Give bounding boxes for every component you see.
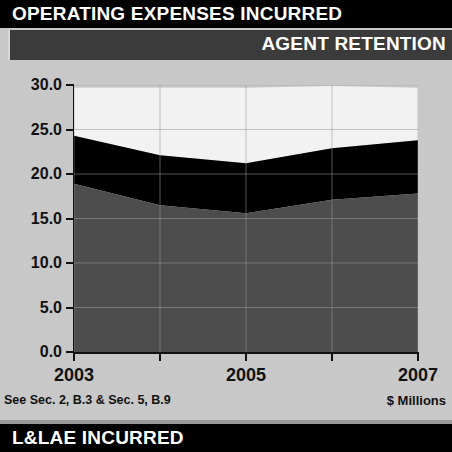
- footer-label: L&LAE INCURRED: [12, 427, 184, 449]
- x-tick: [331, 352, 333, 361]
- x-axis-labels: 200320052007: [0, 62, 452, 420]
- page-title: OPERATING EXPENSES INCURRED: [12, 3, 342, 25]
- chart-body: 30.025.020.015.010.05.00.0 200320052007 …: [0, 62, 452, 420]
- x-tick-label: 2005: [226, 365, 266, 386]
- source-note: See Sec. 2, B.3 & Sec. 5, B.9: [4, 393, 171, 407]
- chart-title: AGENT RETENTION: [261, 33, 446, 55]
- x-tick: [417, 352, 419, 361]
- chart-panel: OPERATING EXPENSES INCURRED AGENT RETENT…: [0, 0, 452, 452]
- x-tick: [245, 352, 247, 361]
- x-tick-label: 2007: [398, 365, 438, 386]
- title-bar: OPERATING EXPENSES INCURRED: [0, 0, 452, 28]
- x-tick: [159, 352, 161, 361]
- x-tick: [73, 352, 75, 361]
- subtitle-bar: AGENT RETENTION: [8, 30, 452, 60]
- x-tick-label: 2003: [54, 365, 94, 386]
- footer-bar: L&LAE INCURRED: [0, 424, 452, 452]
- units-note: $ Millions: [387, 393, 446, 408]
